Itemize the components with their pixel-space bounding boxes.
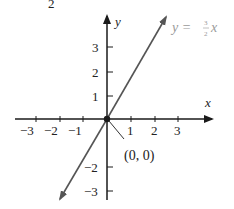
x-tick-label: −3 — [20, 123, 34, 138]
y-axis-label: y — [113, 14, 121, 29]
equation-denominator: 2 — [204, 30, 208, 38]
y-tick-label: 1 — [92, 89, 99, 104]
y-tick-label: 3 — [92, 40, 99, 55]
equation-numerator: 3 — [204, 19, 208, 27]
equation-variable: x — [210, 20, 218, 35]
origin-point-label: (0, 0) — [124, 148, 155, 164]
x-tick-label: −1 — [68, 123, 82, 138]
function-line-upper — [107, 17, 166, 119]
x-tick-label: 1 — [127, 123, 134, 138]
y-tick-label: 2 — [92, 65, 99, 80]
x-tick-label: 3 — [174, 123, 181, 138]
x-axis-label: x — [204, 95, 211, 110]
equation-lhs: y = — [170, 20, 191, 35]
x-tick-label: 2 — [151, 123, 158, 138]
y-tick-label: −2 — [84, 160, 98, 175]
y-tick-label: −3 — [84, 184, 98, 199]
x-tick-label: −2 — [44, 123, 58, 138]
cropped-label-fragment: 2 — [48, 0, 55, 11]
equation-label: y = 3 2 x — [170, 19, 218, 38]
origin-leader-line — [109, 121, 124, 139]
graph-canvas: 2 −3 −2 −1 1 2 3 3 2 1 −2 −3 y x (0, 0) — [0, 0, 234, 209]
